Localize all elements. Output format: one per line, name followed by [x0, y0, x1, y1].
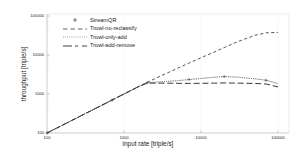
- series-streamqr: [45, 75, 278, 135]
- legend-item-trowl-only-add[interactable]: Trowl-only-add: [62, 33, 172, 42]
- legend-label-trowl-only-add: Trowl-only-add: [90, 35, 127, 41]
- chart-legend: StreamQR Trowl-no-reclassify Trowl-only-…: [62, 16, 172, 50]
- legend-marker-trowl-add-remove: [62, 42, 88, 50]
- legend-item-trowl-no-reclassify[interactable]: Trowl-no-reclassify: [62, 25, 172, 34]
- x-axis-title: input rate [triple/s]: [123, 141, 174, 147]
- legend-label-trowl-add-remove: Trowl-add-remove: [90, 43, 135, 49]
- xtick-label-3: 100000: [271, 136, 285, 140]
- chart-figure: 100 1000 10000 100000 100 1000 10000 100…: [0, 0, 296, 155]
- legend-label-streamqr: StreamQR: [90, 18, 116, 24]
- series-trowl-add-remove: [47, 83, 278, 133]
- legend-item-trowl-add-remove[interactable]: Trowl-add-remove: [62, 42, 172, 51]
- xtick-label-2: 10000: [195, 136, 206, 140]
- series-trowl-only-add: [47, 77, 278, 133]
- legend-marker-trowl-only-add: [62, 33, 88, 41]
- legend-label-trowl-no-reclassify: Trowl-no-reclassify: [90, 26, 137, 32]
- y-axis-title: throughput [triple/s]: [21, 47, 27, 102]
- legend-item-streamqr[interactable]: StreamQR: [62, 16, 172, 25]
- ytick-label-3: 100000: [9, 14, 44, 18]
- legend-marker-streamqr: [62, 16, 88, 24]
- ytick-label-0: 100: [9, 131, 44, 135]
- xtick-label-0: 100: [44, 136, 51, 140]
- legend-marker-trowl-no-reclassify: [62, 25, 88, 33]
